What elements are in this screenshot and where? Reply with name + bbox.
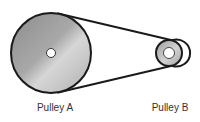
- pulley-diagram: Pulley A Pulley B: [0, 0, 200, 122]
- pulley-a-label: Pulley A: [37, 102, 73, 114]
- pulley-b-hub-hole: [164, 48, 175, 59]
- pulley-b-label: Pulley B: [152, 102, 189, 114]
- pulley-a-hub-hole: [47, 49, 56, 58]
- pulley-a: [11, 13, 91, 93]
- pulley-b: [156, 40, 182, 66]
